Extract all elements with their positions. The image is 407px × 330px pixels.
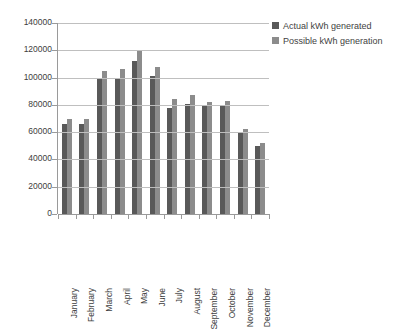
gridline	[58, 23, 269, 24]
bar-group	[111, 23, 129, 214]
legend-label-possible: Possible kWh generation	[283, 36, 383, 46]
y-axis-tick-mark	[52, 23, 57, 24]
x-axis-label-july: July	[175, 288, 184, 303]
gridline	[58, 187, 269, 188]
y-axis-tick-label: 140000	[0, 18, 52, 27]
bar-group	[128, 23, 146, 214]
y-axis-tick-label: 100000	[0, 73, 52, 82]
gridline	[58, 78, 269, 79]
bar-possible	[120, 69, 125, 214]
gridline	[58, 50, 269, 51]
gridline	[58, 105, 269, 106]
legend-swatch-possible-icon	[272, 37, 279, 44]
x-axis-label-october: October	[228, 288, 237, 318]
x-axis-label-march: March	[105, 288, 114, 312]
y-axis-tick-label: 20000	[0, 182, 52, 191]
y-axis-tick-label: 60000	[0, 127, 52, 136]
gridline	[58, 132, 269, 133]
x-axis-labels: JanuaryFebruaryMarchAprilMayJuneJulyAugu…	[57, 216, 268, 291]
y-axis-tick-label: 40000	[0, 154, 52, 163]
bar-possible	[243, 129, 248, 214]
y-axis-tick-mark	[52, 132, 57, 133]
gridline	[58, 159, 269, 160]
bar-possible	[190, 95, 195, 214]
y-axis-tick-mark	[52, 50, 57, 51]
bar-group	[181, 23, 199, 214]
x-axis-label-april: April	[123, 288, 132, 305]
chart-legend: Actual kWh generated Possible kWh genera…	[272, 18, 404, 48]
bar-group	[146, 23, 164, 214]
y-axis-tick-mark	[52, 159, 57, 160]
bar-possible	[260, 143, 265, 214]
bar-group	[216, 23, 234, 214]
legend-label-actual: Actual kWh generated	[283, 21, 372, 31]
bar-group	[163, 23, 181, 214]
bar-possible	[172, 99, 177, 214]
bar-possible	[155, 67, 160, 214]
bar-group	[58, 23, 76, 214]
y-axis-tick-mark	[52, 187, 57, 188]
legend-item-actual: Actual kWh generated	[272, 18, 404, 33]
plot-area	[57, 23, 268, 214]
bar-series-container	[58, 23, 269, 214]
y-axis-tick-label: 120000	[0, 45, 52, 54]
bar-group	[76, 23, 94, 214]
y-axis-tick-label: 80000	[0, 100, 52, 109]
bar-possible	[207, 102, 212, 214]
bar-group	[234, 23, 252, 214]
bar-group	[251, 23, 269, 214]
legend-item-possible: Possible kWh generation	[272, 33, 404, 48]
legend-swatch-actual-icon	[272, 22, 279, 29]
y-axis-tick-mark	[52, 214, 57, 215]
x-axis-label-december: December	[263, 288, 272, 327]
y-axis-tick-label: 0	[0, 209, 52, 218]
y-axis-tick-mark	[52, 105, 57, 106]
x-axis-label-january: January	[70, 288, 79, 318]
bar-possible	[102, 71, 107, 214]
x-axis-label-june: June	[158, 288, 167, 306]
x-axis-tick-mark	[269, 214, 270, 219]
y-axis-tick-mark	[52, 78, 57, 79]
x-axis-label-november: November	[246, 288, 255, 327]
x-axis-label-august: August	[193, 288, 202, 314]
x-axis-label-february: February	[87, 288, 96, 322]
bar-possible	[225, 101, 230, 214]
bar-group	[93, 23, 111, 214]
bar-group	[199, 23, 217, 214]
x-axis-label-september: September	[210, 288, 219, 330]
x-axis-label-may: May	[140, 288, 149, 304]
